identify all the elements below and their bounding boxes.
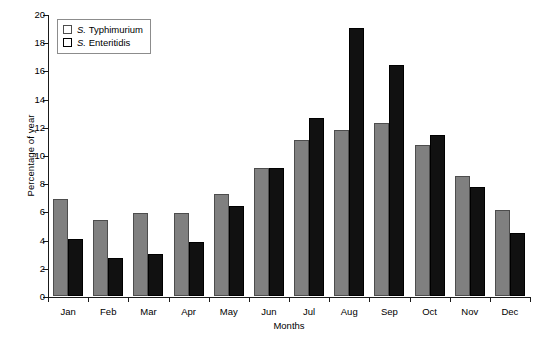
bar (415, 145, 430, 296)
bar (108, 258, 123, 296)
legend-genus-enteritidis: S. (77, 37, 86, 48)
y-tick-label: 20 (34, 9, 45, 20)
legend-genus-typhimurium: S. (77, 24, 86, 35)
bar (389, 65, 404, 296)
bar (229, 206, 244, 296)
bar (430, 135, 445, 296)
y-tick-label: 4 (40, 235, 45, 246)
bar (294, 140, 309, 297)
legend-swatch-icon-enteritidis (63, 38, 72, 47)
bar (349, 28, 364, 296)
bar (374, 123, 389, 296)
y-tick-label: 14 (34, 94, 45, 105)
x-tick-label: Oct (410, 306, 450, 318)
x-tick-label: Mar (128, 306, 168, 318)
bar (189, 242, 204, 296)
bar (254, 168, 269, 296)
legend-item-enteritidis: S. Enteritidis (63, 36, 143, 49)
x-tick-label: Aug (329, 306, 369, 318)
x-tick-label: Feb (88, 306, 128, 318)
y-tick-label: 6 (40, 206, 45, 217)
bar (148, 254, 163, 296)
plot-area: 02468101214161820 JanFebMarAprMayJunJulA… (48, 15, 530, 297)
legend-item-typhimurium: S. Typhimurium (63, 23, 143, 36)
x-tick-label: Dec (490, 306, 530, 318)
bar (93, 220, 108, 296)
x-tick-mark (369, 297, 370, 302)
legend-label-enteritidis: S. Enteritidis (77, 37, 130, 49)
bar (269, 168, 284, 296)
x-tick-mark (128, 297, 129, 302)
x-tick-mark (530, 297, 531, 302)
legend-epithet-enteritidis: Enteritidis (89, 37, 131, 48)
bar (133, 213, 148, 296)
y-tick-label: 18 (34, 37, 45, 48)
y-tick-label: 8 (40, 178, 45, 189)
legend-label-typhimurium: S. Typhimurium (77, 24, 143, 36)
x-axis-title: Months (48, 320, 530, 331)
bar (334, 130, 349, 296)
x-tick-label: Jul (289, 306, 329, 318)
x-tick-label: Jun (249, 306, 289, 318)
x-tick-mark (329, 297, 330, 302)
bar (470, 187, 485, 296)
x-tick-label: Apr (169, 306, 209, 318)
y-tick-label: 16 (34, 65, 45, 76)
x-tick-mark (209, 297, 210, 302)
x-tick-mark (169, 297, 170, 302)
y-tick-label: 2 (40, 263, 45, 274)
legend-swatch-icon-typhimurium (63, 25, 72, 34)
x-tick-mark (410, 297, 411, 302)
y-tick-label: 0 (40, 291, 45, 302)
bar (455, 176, 470, 296)
bar (53, 199, 68, 296)
x-tick-label: Jan (48, 306, 88, 318)
x-tick-mark (249, 297, 250, 302)
bar-chart: Percentage of year 02468101214161820 Jan… (0, 0, 536, 339)
legend: S. Typhimurium S. Enteritidis (57, 19, 151, 54)
bar (68, 239, 83, 296)
x-tick-mark (289, 297, 290, 302)
x-tick-label: Nov (450, 306, 490, 318)
x-tick-mark (48, 297, 49, 302)
bar (214, 194, 229, 296)
bar (495, 210, 510, 296)
x-tick-label: May (209, 306, 249, 318)
x-tick-mark (450, 297, 451, 302)
y-axis-line (48, 15, 49, 298)
x-tick-mark (490, 297, 491, 302)
y-tick-label: 12 (34, 122, 45, 133)
legend-epithet-typhimurium: Typhimurium (89, 24, 143, 35)
y-tick-label: 10 (34, 150, 45, 161)
bar (174, 213, 189, 296)
x-tick-mark (88, 297, 89, 302)
x-tick-label: Sep (369, 306, 409, 318)
bar (510, 233, 525, 296)
bar (309, 118, 324, 296)
